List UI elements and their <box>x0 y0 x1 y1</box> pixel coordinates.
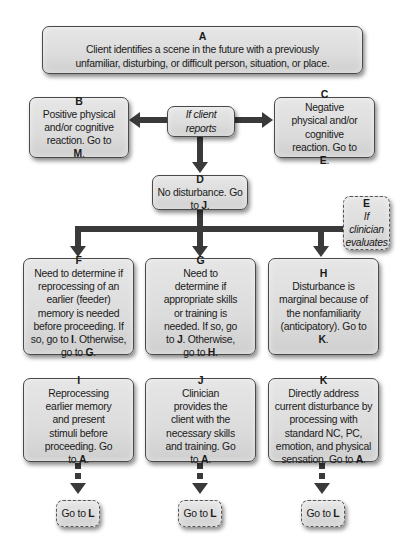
node-letter: D <box>196 173 203 186</box>
node-text: Directly address current disturbance by … <box>273 387 374 466</box>
decision-if-client-reports: If client reports <box>167 106 235 137</box>
goto-target: E <box>320 155 327 166</box>
node-text: Reprocessing earlier memory and present … <box>42 387 115 466</box>
node-letter: B <box>75 95 82 108</box>
node-text: If clinician evaluates <box>345 210 387 249</box>
node-text: Go to L <box>62 507 95 520</box>
node-text: Clinician provides the client with the n… <box>164 387 237 466</box>
node-goto-l-1: Go to L <box>56 500 100 527</box>
node-d: D No disturbance. Go to J. <box>152 175 248 210</box>
node-k: K Directly address current disturbance b… <box>268 378 379 462</box>
goto-target: L <box>210 508 216 519</box>
goto-target: L <box>88 508 94 519</box>
node-letter: G <box>197 254 205 267</box>
node-letter: C <box>321 88 328 101</box>
node-e-if-clinician-evaluates: E If clinician evaluates <box>343 196 390 250</box>
node-f: F Need to determine if reprocessing of a… <box>23 258 134 355</box>
arrowhead-down-icon <box>314 483 330 494</box>
connector-decision-to-c <box>235 117 263 123</box>
arrowhead-down-icon <box>70 483 86 494</box>
arrowhead-down-icon <box>313 246 329 257</box>
node-text: No disturbance. Go to J. <box>155 186 245 212</box>
arrowhead-left-icon <box>129 112 140 128</box>
node-letter: A <box>199 30 206 43</box>
node-b: B Positive physical and/or cognitive rea… <box>29 97 129 158</box>
node-g: G Need to determine if appropriate skill… <box>145 258 256 355</box>
connector-to-h <box>318 226 324 246</box>
goto-target: K <box>319 334 326 345</box>
node-letter: F <box>75 254 81 267</box>
arrowhead-down-icon <box>192 162 208 173</box>
decision-text: If client reports <box>170 108 232 134</box>
connector-e-branch-bar <box>75 226 345 232</box>
connector-decision-to-b <box>139 117 168 123</box>
node-letter: K <box>320 374 327 387</box>
node-goto-l-3: Go to L <box>301 500 345 527</box>
node-letter: I <box>77 374 80 387</box>
connector-to-f <box>75 226 81 246</box>
node-text: Need to determine if appropriate skills … <box>160 267 241 359</box>
dashed-connector-k-to-l <box>319 473 325 479</box>
node-text: Negative physical and/or cognitive react… <box>287 101 362 166</box>
node-letter: E <box>363 197 370 210</box>
node-goto-l-2: Go to L <box>178 500 222 527</box>
goto-target: A <box>356 454 363 465</box>
node-text: Go to L <box>307 507 340 520</box>
node-text: Need to determine if reprocessing of an … <box>29 267 128 359</box>
goto-target: M <box>73 148 81 159</box>
node-h: H Disturbance is marginal because of the… <box>268 258 379 355</box>
node-letter: J <box>198 374 204 387</box>
node-text: Client identifies a scene in the future … <box>63 43 342 69</box>
node-j: J Clinician provides the client with the… <box>145 378 256 462</box>
node-i: I Reprocessing earlier memory and presen… <box>23 378 134 462</box>
arrowhead-right-icon <box>262 112 273 128</box>
dashed-connector-i-to-l <box>75 473 81 479</box>
dashed-connector-j-to-l <box>197 473 203 479</box>
node-c: C Negative physical and/or cognitive rea… <box>274 97 375 158</box>
arrowhead-down-icon <box>192 483 208 494</box>
node-text: Disturbance is marginal because of the n… <box>277 280 370 345</box>
connector-decision-to-d <box>197 137 203 163</box>
goto-target: L <box>333 508 339 519</box>
node-text: Go to L <box>184 507 217 520</box>
goto-target: H <box>208 347 215 358</box>
node-letter: H <box>320 267 327 280</box>
node-a: A Client identifies a scene in the futur… <box>42 26 363 74</box>
node-text: Positive physical and/or cognitive react… <box>42 108 116 160</box>
